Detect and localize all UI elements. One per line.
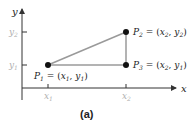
figure-caption: (a): [80, 108, 94, 120]
coordinate-diagram: y x y2 y1 x1 x2 P1 = (x1, y1) P2 = (x2, …: [0, 0, 196, 124]
x1-tick-label: x1: [44, 91, 53, 102]
y1-tick-label: y1: [8, 60, 18, 71]
p2-label: P2 = (x2, y2): [132, 27, 187, 38]
x2-tick-label: x2: [122, 91, 131, 102]
y-axis-label: y: [11, 6, 18, 17]
x-axis-label: x: [181, 83, 187, 94]
point-p2: [123, 29, 129, 35]
point-p3: [123, 62, 129, 68]
hypotenuse-line: [48, 32, 126, 65]
point-p1: [45, 62, 51, 68]
p3-label: P3 = (x2, y1): [132, 60, 187, 71]
p1-label: P1 = (x1, y1): [33, 71, 88, 82]
y2-tick-label: y2: [8, 27, 18, 38]
